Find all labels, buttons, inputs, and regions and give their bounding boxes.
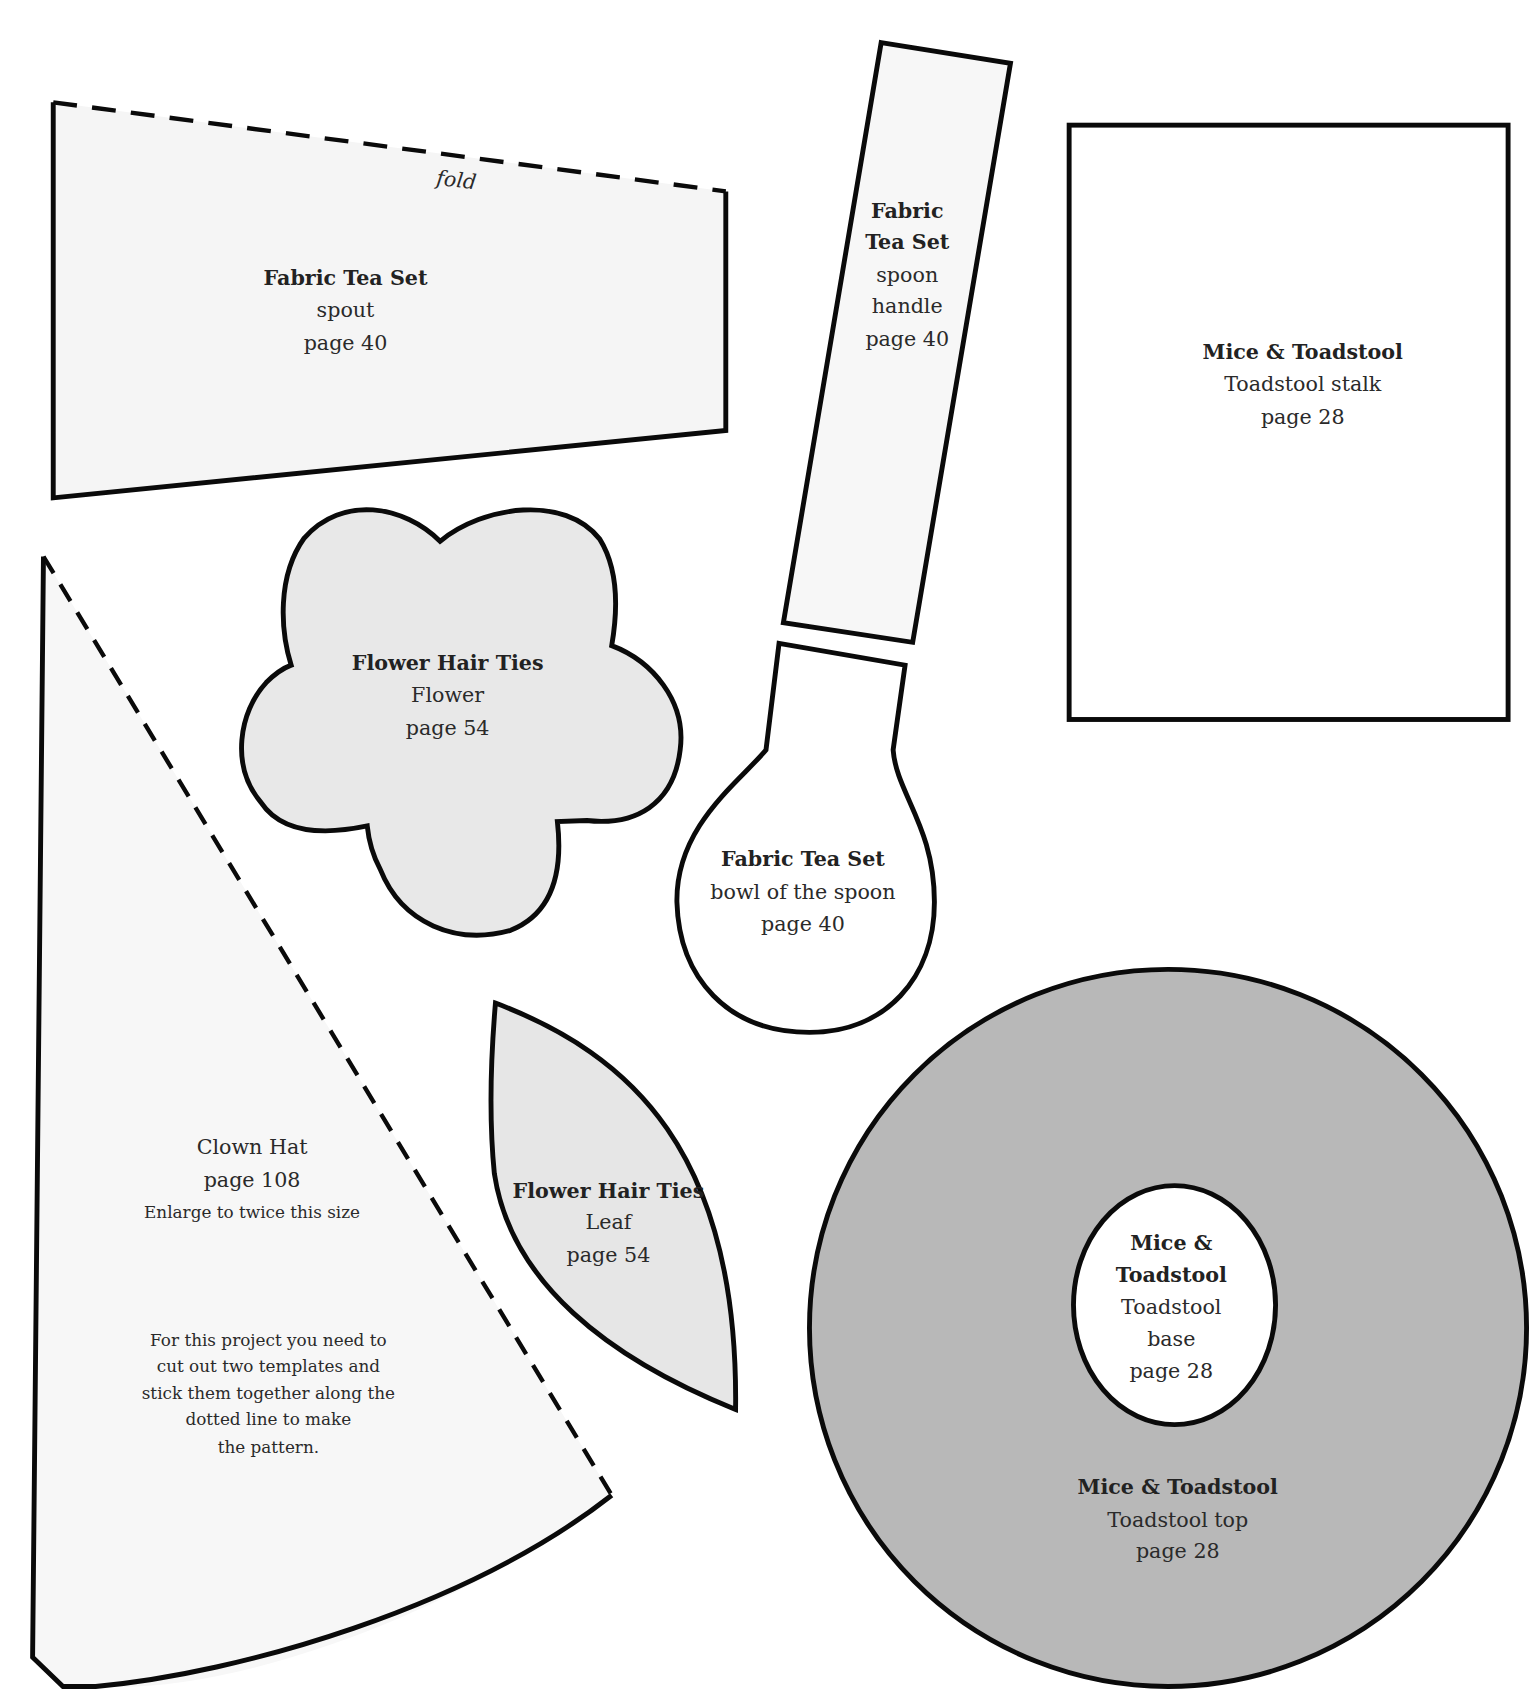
spoon-handle-page: page 40 (865, 327, 949, 351)
flower-part: Flower (411, 683, 484, 707)
clown-hat-instruction-2: cut out two templates and (157, 1356, 381, 1376)
base-project-1: Mice & (1130, 1231, 1213, 1255)
stalk-project: Mice & Toadstool (1203, 340, 1404, 364)
flower-page: page 54 (406, 716, 490, 740)
spout-page: page 40 (304, 331, 388, 355)
spoon-handle-part-2: handle (872, 294, 943, 318)
spout-part: spout (317, 298, 375, 322)
spoon-bowl-outline (677, 643, 935, 1032)
spoon-handle-project-2: Tea Set (865, 230, 950, 254)
base-project-2: Toadstool (1116, 1263, 1227, 1287)
top-page: page 28 (1136, 1539, 1220, 1563)
leaf-part: Leaf (586, 1210, 633, 1234)
base-page: page 28 (1129, 1359, 1213, 1383)
clown-hat-instruction-4: dotted line to make (185, 1409, 351, 1429)
template-spoon-handle: Fabric Tea Set spoon handle page 40 (783, 43, 1010, 643)
clown-hat-instruction-5: the pattern. (218, 1437, 319, 1457)
bowl-page: page 40 (761, 912, 845, 936)
top-project: Mice & Toadstool (1078, 1475, 1279, 1499)
spoon-handle-part-1: spoon (876, 263, 938, 287)
pattern-sheet: fold Fabric Tea Set spout page 40 Fabric… (0, 0, 1532, 1703)
template-leaf: Flower Hair Ties Leaf page 54 (491, 1003, 736, 1409)
base-part-1: Toadstool (1121, 1295, 1221, 1319)
template-toadstool-base: Mice & Toadstool Toadstool base page 28 (1073, 1186, 1275, 1425)
bowl-part: bowl of the spoon (710, 880, 895, 904)
leaf-project: Flower Hair Ties (513, 1179, 705, 1203)
spout-outline (53, 102, 726, 497)
base-part-2: base (1147, 1327, 1195, 1351)
bowl-project: Fabric Tea Set (721, 847, 885, 871)
clown-hat-project: Clown Hat (197, 1135, 309, 1159)
spout-project: Fabric Tea Set (264, 266, 428, 290)
clown-hat-note: Enlarge to twice this size (144, 1202, 360, 1222)
leaf-outline (491, 1003, 736, 1409)
clown-hat-instruction-3: stick them together along the (142, 1383, 395, 1403)
flower-project: Flower Hair Ties (352, 651, 544, 675)
clown-hat-instruction-1: For this project you need to (150, 1330, 387, 1350)
clown-hat-page: page 108 (204, 1168, 301, 1192)
template-toadstool-stalk: Mice & Toadstool Toadstool stalk page 28 (1069, 125, 1508, 719)
templates-canvas: fold Fabric Tea Set spout page 40 Fabric… (0, 0, 1532, 1703)
template-spout: fold Fabric Tea Set spout page 40 (53, 102, 726, 497)
stalk-part: Toadstool stalk (1224, 372, 1382, 396)
fold-label: fold (433, 166, 477, 195)
leaf-page: page 54 (567, 1243, 651, 1267)
top-part: Toadstool top (1107, 1508, 1248, 1532)
template-spoon-bowl: Fabric Tea Set bowl of the spoon page 40 (677, 643, 935, 1032)
stalk-page: page 28 (1261, 405, 1345, 429)
template-flower: Flower Hair Ties Flower page 54 (242, 510, 681, 935)
spoon-handle-project-1: Fabric (871, 199, 944, 223)
